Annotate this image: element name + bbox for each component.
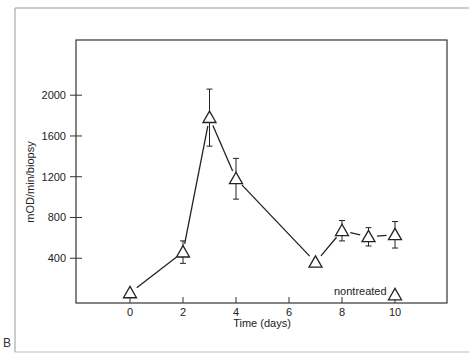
x-axis: 0246810 <box>127 297 401 318</box>
triangle-marker <box>389 288 402 299</box>
triangle-marker <box>230 172 243 183</box>
x-tick-label: 0 <box>127 306 133 318</box>
data-markers <box>124 111 402 300</box>
triangle-marker <box>389 228 402 239</box>
triangle-marker <box>336 224 349 235</box>
triangle-marker <box>177 246 190 257</box>
line-chart: 400800120016002000 0246810 nontreated Ti… <box>0 0 469 355</box>
y-tick-label: 400 <box>48 252 66 264</box>
x-tick-label: 10 <box>389 306 401 318</box>
y-tick-label: 1600 <box>42 130 66 142</box>
series-lines <box>137 125 387 287</box>
triangle-marker <box>203 111 216 122</box>
plot-area <box>76 40 447 303</box>
triangle-marker <box>309 256 322 267</box>
annotation-nontreated: nontreated <box>334 285 387 297</box>
x-tick-label: 8 <box>339 306 345 318</box>
triangle-marker <box>124 286 137 297</box>
y-axis-label: mOD/min/biopsy <box>24 141 36 223</box>
x-tick-label: 2 <box>180 306 186 318</box>
y-tick-label: 2000 <box>42 89 66 101</box>
panel-label: B <box>3 336 11 350</box>
x-axis-label: Time (days) <box>233 317 291 329</box>
triangle-marker <box>362 230 375 241</box>
y-tick-label: 1200 <box>42 171 66 183</box>
y-tick-label: 800 <box>48 211 66 223</box>
